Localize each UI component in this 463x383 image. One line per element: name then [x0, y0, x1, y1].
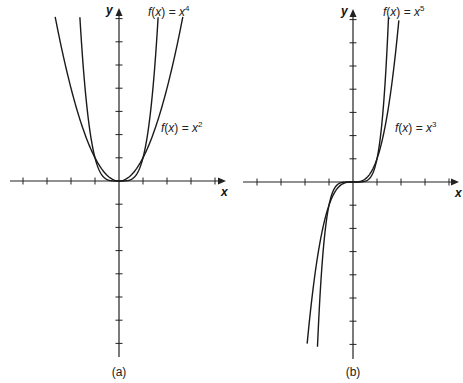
- figure: y x f(x) = x4 f(x) = x2 (a) y x f(x) = x…: [0, 0, 463, 383]
- fn-name: f: [383, 5, 386, 19]
- panel-b-y-axis-label: y: [341, 5, 348, 17]
- fn-name: f: [161, 121, 164, 135]
- panel-b-tag: (b): [346, 366, 361, 378]
- fn-var: x: [168, 121, 174, 135]
- fn-exponent: 3: [432, 120, 436, 129]
- panel-b-label-x3: f(x) = x3: [395, 121, 436, 134]
- fn-exponent: 2: [198, 120, 202, 129]
- panel-a-plot: [10, 8, 226, 357]
- fn-name: f: [395, 121, 398, 135]
- panel-a-x-axis-label: x: [221, 186, 228, 198]
- x-axis-arrow-icon: [218, 178, 226, 185]
- panel-a-label-x4: f(x) = x4: [148, 5, 189, 18]
- fn-var: x: [155, 5, 161, 19]
- fn-exponent: 5: [420, 4, 424, 13]
- y-axis-arrow-icon: [350, 9, 357, 17]
- panel-b-x-axis-label: x: [455, 187, 462, 199]
- panel-a-tag: (a): [112, 366, 127, 378]
- fn-var: x: [390, 5, 396, 19]
- x-axis-arrow-icon: [451, 179, 459, 186]
- fn-name: f: [148, 5, 151, 19]
- panel-a-y-axis-label: y: [106, 4, 113, 16]
- fn-exponent: 4: [185, 4, 189, 13]
- y-axis-arrow-icon: [116, 8, 123, 16]
- panel-a-label-x2: f(x) = x2: [161, 121, 202, 134]
- plot-canvas: [0, 0, 463, 383]
- panel-b-plot: [243, 9, 459, 359]
- fn-var: x: [402, 121, 408, 135]
- panel-b-label-x5: f(x) = x5: [383, 5, 424, 18]
